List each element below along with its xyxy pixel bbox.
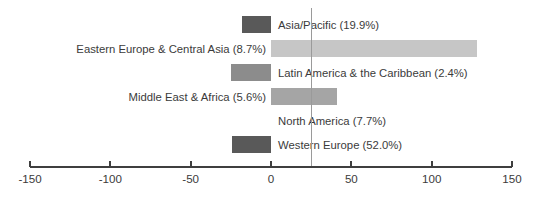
x-axis-tick xyxy=(270,161,272,167)
x-axis-tick-label: -100 xyxy=(99,172,122,185)
x-axis-tick-label: -150 xyxy=(18,172,41,185)
x-axis-tick xyxy=(190,161,192,167)
x-axis: -150-100-50050100150 xyxy=(0,0,534,200)
x-axis-tick-label: 0 xyxy=(268,172,274,185)
x-axis-tick xyxy=(29,161,31,167)
x-axis-tick-label: 50 xyxy=(345,172,358,185)
x-axis-tick xyxy=(109,161,111,167)
x-axis-tick xyxy=(350,161,352,167)
x-axis-tick xyxy=(511,161,513,167)
x-axis-tick-label: 100 xyxy=(422,172,441,185)
x-axis-tick-label: 150 xyxy=(502,172,521,185)
x-axis-tick xyxy=(431,161,433,167)
horizontal-bar-chart: Asia/Pacific (19.9%)Eastern Europe & Cen… xyxy=(0,0,534,200)
x-axis-tick-label: -50 xyxy=(182,172,199,185)
